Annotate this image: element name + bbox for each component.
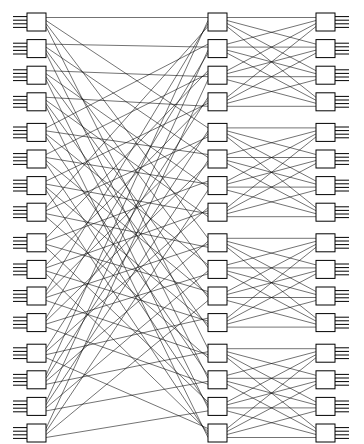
switch-node-ingress-8[interactable] (27, 203, 46, 221)
switch-node-egress-10[interactable] (316, 260, 335, 278)
switch-node-ingress-9[interactable] (27, 234, 46, 252)
switch-node-middle-10[interactable] (208, 260, 227, 278)
input-to-middle-link (46, 274, 208, 324)
input-to-middle-link (46, 24, 208, 239)
switch-node-ingress-13[interactable] (27, 344, 46, 362)
switch-node-middle-8[interactable] (208, 203, 227, 221)
switch-node-middle-3[interactable] (208, 66, 227, 84)
switch-node-middle-2[interactable] (208, 40, 227, 58)
switch-node-ingress-6[interactable] (27, 150, 46, 168)
input-to-middle-link (46, 71, 208, 239)
switch-node-ingress-3[interactable] (27, 66, 46, 84)
input-to-middle-link (46, 27, 208, 208)
input-to-middle-link (46, 74, 208, 187)
switch-node-egress-7[interactable] (316, 177, 335, 195)
switch-node-ingress-4[interactable] (27, 93, 46, 111)
input-to-middle-link (46, 44, 208, 47)
switch-node-egress-2[interactable] (316, 40, 335, 58)
switch-node-ingress-14[interactable] (27, 371, 46, 389)
switch-node-middle-13[interactable] (208, 344, 227, 362)
input-to-middle-link (46, 411, 208, 438)
switch-node-middle-16[interactable] (208, 424, 227, 442)
clos-network-diagram (0, 0, 364, 444)
switch-node-middle-9[interactable] (208, 234, 227, 252)
switch-node-middle-14[interactable] (208, 371, 227, 389)
input-to-middle-link (46, 106, 208, 437)
switch-node-ingress-10[interactable] (27, 260, 46, 278)
input-to-middle-link (46, 301, 208, 355)
input-to-middle-link (46, 181, 208, 241)
switch-box-layer (27, 13, 335, 442)
switch-node-ingress-5[interactable] (27, 123, 46, 141)
input-to-middle-link (46, 53, 208, 318)
switch-node-middle-5[interactable] (208, 123, 227, 141)
switch-node-egress-1[interactable] (316, 13, 335, 31)
switch-node-egress-3[interactable] (316, 66, 335, 84)
link-layer (46, 18, 316, 438)
switch-node-ingress-12[interactable] (27, 314, 46, 332)
switch-node-ingress-11[interactable] (27, 287, 46, 305)
switch-node-egress-9[interactable] (316, 234, 335, 252)
input-to-middle-link (46, 80, 208, 429)
switch-node-egress-16[interactable] (316, 424, 335, 442)
switch-node-egress-15[interactable] (316, 397, 335, 415)
input-to-middle-link (46, 100, 208, 265)
input-to-middle-link (46, 187, 208, 324)
switch-node-middle-12[interactable] (208, 314, 227, 332)
input-to-middle-link (46, 211, 208, 268)
input-to-middle-link (46, 80, 208, 408)
switch-node-ingress-15[interactable] (27, 397, 46, 415)
input-to-middle-link (46, 301, 208, 435)
switch-node-middle-1[interactable] (208, 13, 227, 31)
switch-node-middle-6[interactable] (208, 150, 227, 168)
switch-node-egress-4[interactable] (316, 93, 335, 111)
switch-node-middle-11[interactable] (208, 287, 227, 305)
switch-node-ingress-16[interactable] (27, 424, 46, 442)
input-to-middle-link (46, 50, 208, 268)
switch-node-egress-14[interactable] (316, 371, 335, 389)
switch-node-egress-5[interactable] (316, 123, 335, 141)
switch-node-ingress-2[interactable] (27, 40, 46, 58)
input-to-middle-link (46, 381, 208, 411)
switch-node-middle-4[interactable] (208, 93, 227, 111)
switch-node-ingress-1[interactable] (27, 13, 46, 31)
switch-node-egress-8[interactable] (316, 203, 335, 221)
input-to-middle-link (46, 103, 208, 327)
switch-node-ingress-7[interactable] (27, 177, 46, 195)
switch-node-middle-7[interactable] (208, 177, 227, 195)
switch-node-egress-12[interactable] (316, 314, 335, 332)
switch-node-egress-11[interactable] (316, 287, 335, 305)
switch-node-egress-6[interactable] (316, 150, 335, 168)
network-svg (0, 0, 364, 444)
switch-node-egress-13[interactable] (316, 344, 335, 362)
switch-node-middle-15[interactable] (208, 397, 227, 415)
